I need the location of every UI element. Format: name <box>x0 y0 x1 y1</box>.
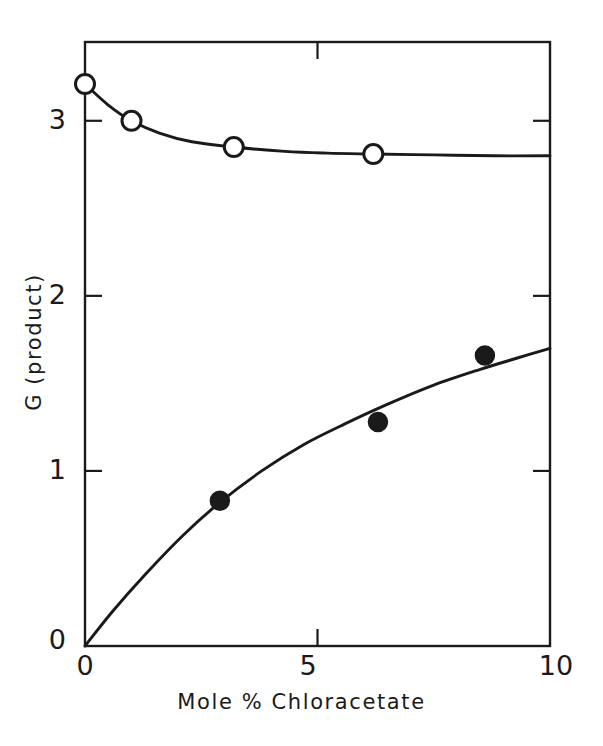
ytick-label-1: 1 <box>26 454 66 485</box>
ytick-label-0: 0 <box>26 624 66 655</box>
ytick-label-3: 3 <box>26 104 66 135</box>
chart-canvas <box>0 0 603 746</box>
xtick-label-10: 10 <box>534 650 578 681</box>
x-axis-title: Mole % Chloracetate <box>0 690 603 714</box>
series-markers <box>76 75 495 511</box>
y-axis-title: G (product) <box>22 232 46 452</box>
xtick-label-0: 0 <box>63 650 107 681</box>
series-curves <box>85 84 550 646</box>
xtick-label-5: 5 <box>286 650 330 681</box>
figure-container: 3 2 1 0 0 5 10 Mole % Chloracetate G (pr… <box>0 0 603 746</box>
